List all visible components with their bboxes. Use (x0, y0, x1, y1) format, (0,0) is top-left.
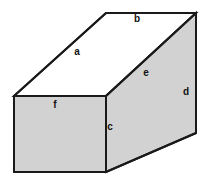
face-label-d: d (183, 87, 189, 97)
front-face (14, 96, 106, 172)
face-label-b: b (134, 14, 140, 24)
face-label-e: e (143, 68, 149, 78)
face-label-f: f (53, 100, 56, 110)
face-label-a: a (74, 47, 80, 57)
prism-drawing (0, 0, 209, 181)
face-label-c: c (107, 122, 113, 132)
prism-figure: a b c d e f (0, 0, 209, 181)
